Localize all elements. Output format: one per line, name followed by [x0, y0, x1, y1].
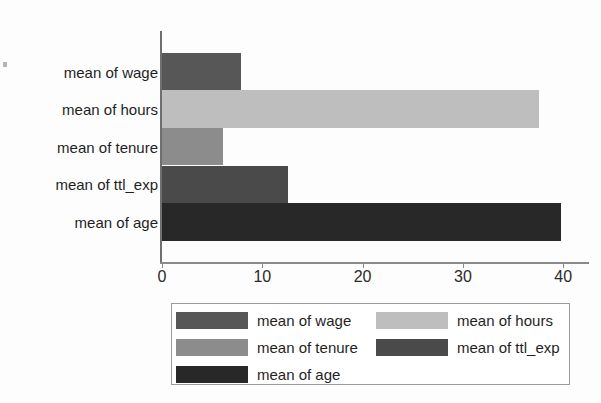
bar-chart-figure: mean of wage mean of hours mean of tenur… [0, 0, 601, 403]
x-axis-line [160, 262, 589, 264]
category-label-ttl-exp: mean of ttl_exp [55, 176, 158, 193]
legend-label-wage: mean of wage [257, 312, 351, 329]
legend-label-ttl-exp: mean of ttl_exp [457, 339, 560, 356]
y-axis-line [160, 31, 162, 263]
x-tick-label-20: 20 [354, 268, 372, 286]
category-label-tenure: mean of tenure [57, 138, 158, 155]
legend-swatch-wage [176, 312, 248, 329]
legend-entry-wage: mean of wage [176, 312, 351, 329]
legend-swatch-tenure [176, 339, 248, 356]
legend-label-hours: mean of hours [457, 312, 553, 329]
category-label-wage: mean of wage [64, 63, 158, 80]
x-tick-label-0: 0 [158, 268, 167, 286]
legend-swatch-ttl-exp [376, 339, 448, 356]
category-label-hours: mean of hours [62, 101, 158, 118]
legend-swatch-age [176, 366, 248, 383]
legend-label-age: mean of age [257, 366, 340, 383]
bar-mean-of-hours [162, 90, 539, 128]
legend-entry-hours: mean of hours [376, 312, 553, 329]
bar-mean-of-ttl-exp [162, 166, 288, 204]
legend-box: mean of wage mean of hours mean of tenur… [171, 303, 570, 385]
legend-swatch-hours [376, 312, 448, 329]
x-tick-label-40: 40 [554, 268, 572, 286]
bar-mean-of-tenure [162, 128, 223, 166]
legend-entry-age: mean of age [176, 366, 340, 383]
bar-mean-of-wage [162, 53, 241, 91]
category-label-age: mean of age [75, 213, 158, 230]
plot-area: mean of wage mean of hours mean of tenur… [0, 0, 601, 300]
legend-label-tenure: mean of tenure [257, 339, 358, 356]
legend-entry-ttl-exp: mean of ttl_exp [376, 339, 560, 356]
bar-mean-of-age [162, 203, 561, 241]
x-tick-label-30: 30 [454, 268, 472, 286]
x-tick-label-10: 10 [253, 268, 271, 286]
legend-entry-tenure: mean of tenure [176, 339, 358, 356]
